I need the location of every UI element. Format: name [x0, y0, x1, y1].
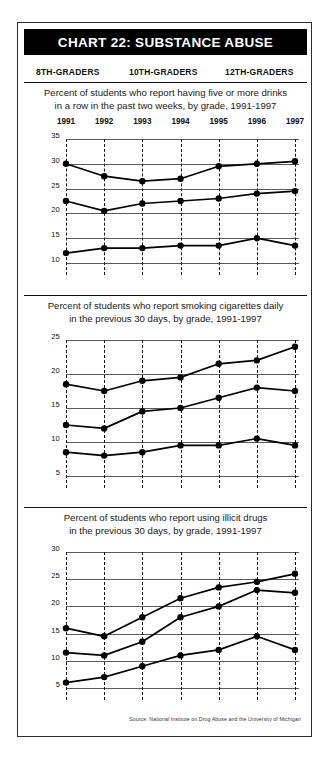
data-point-marker: [177, 405, 183, 411]
series-layer: [24, 117, 307, 287]
data-point-marker: [254, 579, 260, 585]
chart-poster: CHART 22: SUBSTANCE ABUSE 8TH-GRADERS 10…: [17, 22, 312, 737]
data-point-marker: [63, 161, 69, 167]
data-point-marker: [254, 587, 260, 593]
panel-divider-1: [24, 295, 307, 296]
poster-title-bar: CHART 22: SUBSTANCE ABUSE: [24, 29, 307, 55]
legend-item-grade12: 12TH-GRADERS: [225, 67, 294, 77]
data-point-marker: [101, 674, 107, 680]
data-point-marker: [292, 590, 298, 596]
data-point-marker: [216, 584, 222, 590]
data-point-marker: [139, 408, 145, 414]
data-point-marker: [139, 200, 145, 206]
data-point-marker: [216, 195, 222, 201]
data-point-marker: [254, 633, 260, 639]
data-point-marker: [63, 422, 69, 428]
data-point-marker: [139, 178, 145, 184]
data-point-marker: [216, 395, 222, 401]
data-point-marker: [139, 245, 145, 251]
chart-title-line1-2: Percent of students who report using ill…: [24, 512, 307, 525]
data-point-marker: [216, 361, 222, 367]
data-point-marker: [101, 245, 107, 251]
data-point-marker: [216, 442, 222, 448]
data-point-marker: [216, 163, 222, 169]
data-point-marker: [177, 198, 183, 204]
data-point-marker: [254, 235, 260, 241]
chart-title-line2-0: in a row in the past two weeks, by grade…: [24, 100, 307, 113]
chart-title-line2-1: in the previous 30 days, by grade, 1991-…: [24, 313, 307, 326]
legend-item-grade10: 10TH-GRADERS: [129, 67, 198, 77]
data-point-marker: [254, 190, 260, 196]
data-point-marker: [139, 614, 145, 620]
chart-panel-daily-smoking: Percent of students who report smoking c…: [24, 300, 307, 512]
data-point-marker: [63, 250, 69, 256]
data-point-marker: [254, 435, 260, 441]
chart-title-line1-1: Percent of students who report smoking c…: [24, 300, 307, 313]
data-point-marker: [292, 344, 298, 350]
data-point-marker: [292, 388, 298, 394]
series-layer: [24, 330, 307, 500]
data-point-marker: [139, 639, 145, 645]
data-point-marker: [292, 242, 298, 248]
data-point-marker: [177, 442, 183, 448]
plot-area-daily-smoking: 510152025: [24, 330, 307, 500]
data-point-marker: [63, 381, 69, 387]
data-point-marker: [177, 614, 183, 620]
data-point-marker: [101, 388, 107, 394]
data-point-marker: [292, 158, 298, 164]
data-point-marker: [63, 649, 69, 655]
data-point-marker: [139, 378, 145, 384]
data-point-marker: [216, 603, 222, 609]
data-point-marker: [101, 173, 107, 179]
data-point-marker: [177, 176, 183, 182]
data-point-marker: [63, 449, 69, 455]
legend-item-grade8: 8TH-GRADERS: [36, 67, 100, 77]
series-line: [66, 636, 295, 682]
data-point-marker: [139, 663, 145, 669]
data-point-marker: [177, 242, 183, 248]
chart-panel-illicit-drugs: Percent of students who report using ill…: [24, 512, 307, 727]
data-point-marker: [177, 374, 183, 380]
data-point-marker: [254, 161, 260, 167]
data-point-marker: [177, 652, 183, 658]
source-note: Source: National Institute on Drug Abuse…: [129, 716, 301, 722]
data-point-marker: [292, 571, 298, 577]
data-point-marker: [101, 633, 107, 639]
chart-title-line2-2: in the previous 30 days, by grade, 1991-…: [24, 525, 307, 538]
data-point-marker: [101, 208, 107, 214]
data-point-marker: [101, 425, 107, 431]
data-point-marker: [216, 242, 222, 248]
data-point-marker: [63, 679, 69, 685]
data-point-marker: [292, 442, 298, 448]
legend-divider: [24, 82, 307, 83]
data-point-marker: [216, 647, 222, 653]
data-point-marker: [101, 652, 107, 658]
data-point-marker: [292, 647, 298, 653]
plot-area-binge-drinking: 1015202530351991199219931994199519961997: [24, 117, 307, 287]
chart-panel-binge-drinking: Percent of students who report having fi…: [24, 87, 307, 299]
data-point-marker: [292, 188, 298, 194]
data-point-marker: [254, 384, 260, 390]
page-title: CHART 22: SUBSTANCE ABUSE: [58, 35, 273, 50]
plot-area-illicit-drugs: 51015202530: [24, 542, 307, 712]
legend: 8TH-GRADERS 10TH-GRADERS 12TH-GRADERS: [24, 63, 307, 81]
series-layer: [24, 542, 307, 712]
data-point-marker: [139, 449, 145, 455]
data-point-marker: [101, 452, 107, 458]
data-point-marker: [254, 357, 260, 363]
data-point-marker: [177, 595, 183, 601]
series-line: [66, 574, 295, 637]
data-point-marker: [63, 198, 69, 204]
series-line: [66, 347, 295, 391]
data-point-marker: [63, 625, 69, 631]
panel-divider-2: [24, 507, 307, 508]
chart-title-line1-0: Percent of students who report having fi…: [24, 87, 307, 100]
